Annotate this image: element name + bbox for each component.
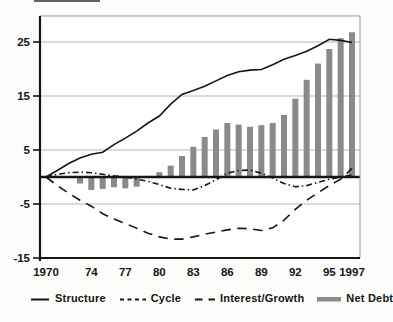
x-tick-label: 92 <box>289 266 302 278</box>
legend-item-interest-growth: Interest/Growth <box>194 292 304 304</box>
net-debt-bar <box>304 80 310 177</box>
legend-label-net-debt: Net Debt <box>346 292 393 304</box>
net-debt-bar <box>111 177 117 187</box>
net-debt-bar <box>236 125 242 177</box>
legend-label-interest-growth: Interest/Growth <box>220 292 304 304</box>
x-tick-label: 77 <box>119 266 132 278</box>
net-debt-bar-icon <box>317 293 341 303</box>
net-debt-bar <box>349 32 355 177</box>
net-debt-bar <box>213 129 219 177</box>
y-tick-label: 15 <box>17 90 30 102</box>
x-tick-label: 89 <box>255 266 268 278</box>
y-tick-label: 25 <box>17 36 30 48</box>
interest-growth-dash-line-icon <box>194 293 215 303</box>
x-tick-label: 80 <box>153 266 166 278</box>
x-tick-label: 95 <box>323 266 336 278</box>
legend-label-structure: Structure <box>55 292 106 304</box>
net-debt-bar <box>88 177 94 190</box>
x-tick-label: 86 <box>221 266 234 278</box>
x-tick-label: 74 <box>85 266 98 278</box>
net-debt-bar <box>202 137 208 177</box>
net-debt-bar <box>270 123 276 177</box>
plot-area <box>40 16 360 258</box>
net-debt-bar <box>168 166 174 177</box>
net-debt-bar <box>315 64 321 177</box>
cycle-dash-line-icon <box>119 293 146 303</box>
net-debt-bar <box>281 115 287 177</box>
legend-item-net-debt: Net Debt <box>317 292 393 304</box>
net-debt-bar <box>122 177 128 188</box>
x-tick-label: 83 <box>187 266 200 278</box>
legend-item-cycle: Cycle <box>119 292 181 304</box>
net-debt-bar <box>190 147 196 177</box>
y-tick-label: -15 <box>13 252 30 264</box>
legend-item-structure: Structure <box>30 292 106 304</box>
net-debt-bar <box>179 156 185 177</box>
net-debt-bar <box>247 127 253 177</box>
chart-legend: Structure Cycle Interest/Growth Net Debt <box>0 292 384 304</box>
y-tick-label: 5 <box>24 144 31 156</box>
net-debt-bar <box>258 125 264 177</box>
structure-line-icon <box>30 293 50 303</box>
x-tick-label: 1997 <box>339 266 365 278</box>
net-debt-bar <box>224 123 230 177</box>
y-tick-label: -5 <box>20 198 31 210</box>
net-debt-bar <box>292 99 298 177</box>
net-debt-bar <box>326 49 332 177</box>
net-debt-bar <box>338 38 344 177</box>
net-debt-bar <box>100 177 106 189</box>
x-tick-label: 1970 <box>33 266 59 278</box>
debt-decomposition-chart: 25155-5-15197074778083868992951997 <box>0 0 384 290</box>
legend-label-cycle: Cycle <box>151 292 181 304</box>
